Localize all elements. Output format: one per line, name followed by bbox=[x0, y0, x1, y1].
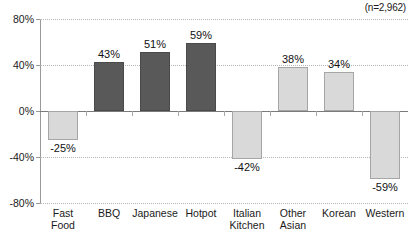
category-tick bbox=[270, 111, 271, 116]
y-axis-tick-label: 40% bbox=[0, 59, 34, 71]
y-axis-tick-mark bbox=[36, 157, 40, 158]
x-axis-category-label: Italian Kitchen bbox=[224, 208, 270, 231]
bar-value-label: 59% bbox=[177, 29, 225, 41]
y-axis-tick-label: 80% bbox=[0, 13, 34, 25]
x-axis-category-label: Western bbox=[362, 208, 408, 220]
y-axis-tick-mark bbox=[36, 203, 40, 204]
bar-value-label: -59% bbox=[361, 181, 409, 193]
category-tick bbox=[224, 111, 225, 116]
category-tick bbox=[132, 111, 133, 116]
bar bbox=[140, 52, 170, 111]
category-tick bbox=[86, 111, 87, 116]
category-tick bbox=[362, 111, 363, 116]
bar bbox=[48, 111, 78, 140]
category-tick bbox=[178, 111, 179, 116]
bar-value-label: 43% bbox=[85, 48, 133, 60]
bar-value-label: -25% bbox=[39, 142, 87, 154]
x-axis-category-label: Korean bbox=[316, 208, 362, 220]
bar bbox=[94, 62, 124, 111]
bar-value-label: 51% bbox=[131, 38, 179, 50]
x-axis-category-label: BBQ bbox=[86, 208, 132, 220]
bar bbox=[370, 111, 400, 179]
bar bbox=[232, 111, 262, 159]
bar-value-label: 38% bbox=[269, 53, 317, 65]
y-axis-tick-label: 0% bbox=[0, 105, 34, 117]
y-axis-tick-mark bbox=[36, 65, 40, 66]
sample-size-annotation: (n=2,962) bbox=[365, 2, 406, 13]
y-axis-tick-label: -80% bbox=[0, 197, 34, 209]
bar-value-label: 34% bbox=[315, 58, 363, 70]
gridline bbox=[40, 203, 408, 204]
x-axis-category-label: Other Asian bbox=[270, 208, 316, 231]
bar bbox=[278, 67, 308, 111]
category-tick bbox=[316, 111, 317, 116]
bar bbox=[186, 43, 216, 111]
x-axis-category-label: Japanese bbox=[132, 208, 178, 220]
y-axis-tick-mark bbox=[36, 19, 40, 20]
gridline bbox=[40, 157, 408, 158]
bar-value-label: -42% bbox=[223, 161, 271, 173]
bar bbox=[324, 72, 354, 111]
x-axis-category-label: Fast Food bbox=[40, 208, 86, 231]
y-axis-tick-label: -40% bbox=[0, 151, 34, 163]
bar-chart: (n=2,962) 80%40%0%-40%-80% -25%43%51%59%… bbox=[0, 0, 410, 242]
x-axis-category-label: Hotpot bbox=[178, 208, 224, 220]
gridline bbox=[40, 19, 408, 20]
